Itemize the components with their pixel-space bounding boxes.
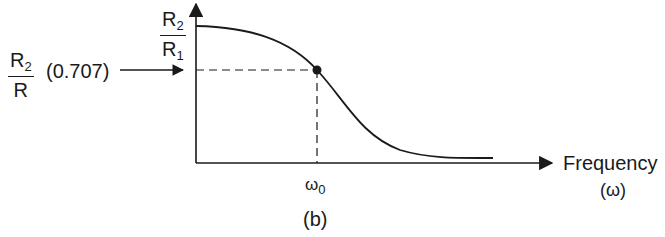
cutoff-point (313, 66, 322, 75)
plot-canvas (0, 0, 665, 237)
cutoff-gain-value: (0.707) (46, 61, 109, 81)
figure-caption: (b) (303, 209, 327, 229)
cutoff-frequency-label: ω0 (305, 176, 326, 196)
x-axis-label: Frequency (563, 153, 658, 173)
response-curve (196, 26, 493, 158)
y-axis-max-label: R2 R1 (160, 9, 186, 62)
cutoff-gain-fraction: R2 R (8, 50, 34, 100)
x-axis-unit: (ω) (600, 181, 626, 199)
